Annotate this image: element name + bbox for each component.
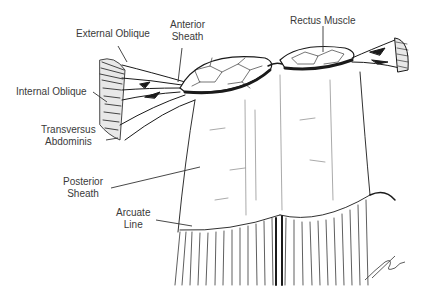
- label-rectus-muscle: Rectus Muscle: [290, 15, 356, 27]
- label-anterior-sheath-line2: Sheath: [170, 31, 205, 43]
- lower-rectus-fibers: [175, 192, 395, 285]
- posterior-sheath: [178, 72, 370, 232]
- label-external-oblique: External Oblique: [76, 28, 150, 40]
- label-internal-oblique: Internal Oblique: [16, 86, 87, 98]
- label-posterior-sheath: Posterior Sheath: [63, 176, 103, 200]
- label-posterior-line2: Sheath: [63, 188, 103, 200]
- left-rectus-muscle: [180, 57, 272, 93]
- artist-signature: [365, 256, 405, 280]
- left-aponeurosis-layers: [120, 65, 195, 140]
- right-rectus-muscle: [280, 47, 354, 70]
- label-arcuate-line1: Arcuate: [116, 207, 150, 219]
- label-transversus-abdominis: Transversus Abdominis: [41, 124, 96, 148]
- label-transversus-line1: Transversus: [41, 124, 96, 136]
- label-transversus-line2: Abdominis: [41, 136, 96, 148]
- label-anterior-sheath: Anterior Sheath: [170, 19, 205, 43]
- label-arcuate-line2: Line: [116, 219, 150, 231]
- label-posterior-line1: Posterior: [63, 176, 103, 188]
- label-arcuate-line: Arcuate Line: [116, 207, 150, 231]
- label-anterior-sheath-line1: Anterior: [170, 19, 205, 31]
- right-lateral-muscles: [352, 38, 408, 72]
